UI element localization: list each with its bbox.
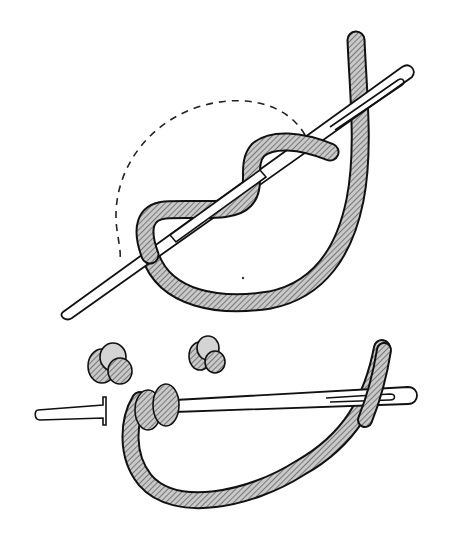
finished-knot-1 (88, 343, 132, 384)
needle-tip-stub (35, 397, 106, 425)
bottom-panel (35, 336, 417, 500)
finished-knot-2 (189, 336, 225, 373)
top-panel (61, 40, 413, 319)
illustration-canvas (0, 0, 456, 555)
thread-coils (135, 384, 179, 430)
french-knot-illustration (0, 0, 456, 555)
